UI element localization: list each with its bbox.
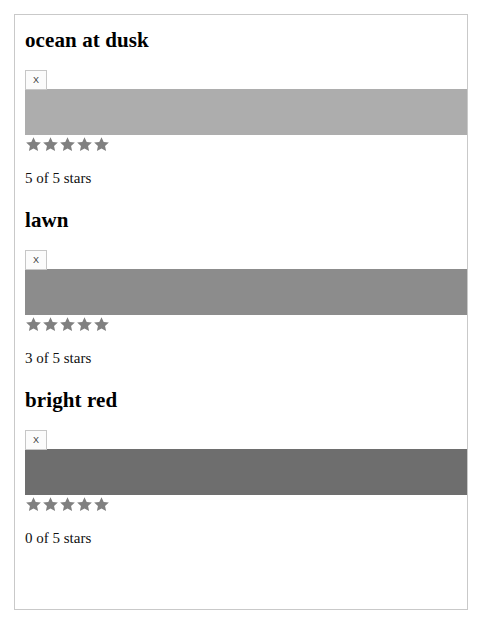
star-icon[interactable] xyxy=(93,316,110,333)
star-rating[interactable] xyxy=(25,316,457,333)
broken-image-icon: X xyxy=(25,250,47,270)
star-rating[interactable] xyxy=(25,136,457,153)
card-content: ocean at dusk X 5 of 5 stars lawn X 3 of… xyxy=(15,15,467,547)
swatch-item: ocean at dusk X 5 of 5 stars xyxy=(25,29,457,187)
swatch-item: lawn X 3 of 5 stars xyxy=(25,209,457,367)
broken-image-icon: X xyxy=(25,430,47,450)
swatch-title: bright red xyxy=(25,389,457,412)
swatch-title: lawn xyxy=(25,209,457,232)
star-icon[interactable] xyxy=(93,136,110,153)
star-rating[interactable] xyxy=(25,496,457,513)
star-icon[interactable] xyxy=(25,496,42,513)
swatch-image-area: X xyxy=(25,430,457,495)
star-icon[interactable] xyxy=(25,316,42,333)
broken-image-icon: X xyxy=(25,70,47,90)
star-icon[interactable] xyxy=(42,136,59,153)
swatch-image-area: X xyxy=(25,70,457,135)
page-root: ocean at dusk X 5 of 5 stars lawn X 3 of… xyxy=(0,0,484,630)
star-icon[interactable] xyxy=(59,316,76,333)
color-swatch-bar xyxy=(25,449,468,495)
swatch-list-card: ocean at dusk X 5 of 5 stars lawn X 3 of… xyxy=(14,14,468,610)
star-icon[interactable] xyxy=(93,496,110,513)
rating-label: 3 of 5 stars xyxy=(25,349,457,367)
star-icon[interactable] xyxy=(42,316,59,333)
star-icon[interactable] xyxy=(59,136,76,153)
star-icon[interactable] xyxy=(59,496,76,513)
star-icon[interactable] xyxy=(76,136,93,153)
star-icon[interactable] xyxy=(42,496,59,513)
rating-label: 0 of 5 stars xyxy=(25,529,457,547)
star-icon[interactable] xyxy=(76,496,93,513)
swatch-image-area: X xyxy=(25,250,457,315)
swatch-item: bright red X 0 of 5 stars xyxy=(25,389,457,547)
star-icon[interactable] xyxy=(76,316,93,333)
star-icon[interactable] xyxy=(25,136,42,153)
rating-label: 5 of 5 stars xyxy=(25,169,457,187)
swatch-title: ocean at dusk xyxy=(25,29,457,52)
color-swatch-bar xyxy=(25,89,468,135)
color-swatch-bar xyxy=(25,269,468,315)
